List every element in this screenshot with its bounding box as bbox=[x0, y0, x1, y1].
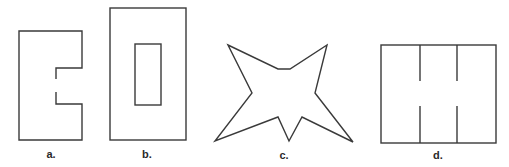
figure-b-inner-rect bbox=[135, 44, 161, 105]
figures-canvas bbox=[0, 0, 509, 167]
figure-d bbox=[381, 45, 496, 143]
figure-c-star bbox=[215, 45, 353, 142]
figure-a-label: a. bbox=[46, 148, 55, 160]
figure-c-label: c. bbox=[279, 149, 288, 161]
figure-b-label: b. bbox=[142, 148, 152, 160]
figure-d-label: d. bbox=[433, 149, 443, 161]
figure-b bbox=[110, 8, 186, 140]
figure-c bbox=[215, 45, 353, 142]
figure-a bbox=[19, 31, 82, 140]
figure-d-outer-rect bbox=[381, 45, 496, 143]
figure-a-outline bbox=[19, 31, 82, 140]
figure-b-outer-rect bbox=[110, 8, 186, 140]
